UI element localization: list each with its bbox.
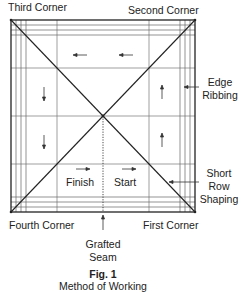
third-corner-label: Third Corner — [8, 1, 67, 14]
start-label: Start — [114, 176, 136, 189]
arrow-down-icon — [43, 135, 46, 149]
arrow-left-icon — [73, 54, 87, 57]
figure-caption: Method of Working — [53, 280, 153, 293]
short-row-shaping-label: Short Row Shaping — [197, 167, 241, 206]
finish-label: Finish — [66, 176, 94, 189]
edge-ribbing-pointer — [184, 86, 199, 89]
arrow-right-icon — [76, 168, 90, 171]
fourth-corner-label: Fourth Corner — [9, 219, 74, 232]
callout-pointers — [102, 86, 200, 231]
arrow-up-icon — [161, 85, 164, 99]
grafted-seam-label: Grafted Seam — [78, 238, 128, 264]
second-corner-label: Second Corner — [128, 4, 199, 17]
grafted-seam-pointer — [102, 215, 105, 230]
arrow-right-icon — [122, 168, 136, 171]
arrow-up-icon — [161, 133, 164, 147]
arrow-down-icon — [43, 87, 46, 101]
edge-ribbing-label: Edge Ribbing — [200, 76, 240, 102]
arrow-left-icon — [119, 54, 133, 57]
first-corner-label: First Corner — [143, 219, 198, 232]
